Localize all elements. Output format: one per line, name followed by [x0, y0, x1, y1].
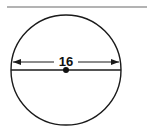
diameter-label: 16: [59, 54, 73, 69]
figure: 16: [0, 0, 147, 128]
center-point: [63, 67, 69, 73]
